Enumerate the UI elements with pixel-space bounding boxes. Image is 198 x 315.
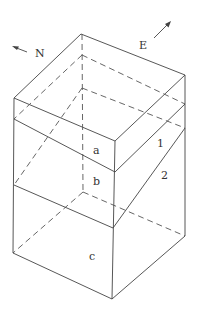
front-edge bbox=[112, 141, 115, 299]
layer-a-label: a bbox=[93, 144, 100, 157]
surface-2 bbox=[113, 128, 185, 228]
east-label: E bbox=[139, 39, 147, 52]
hidden-line-c-left bbox=[13, 192, 83, 253]
surface-1-label: 1 bbox=[157, 137, 164, 150]
hidden-line-a-left bbox=[14, 55, 82, 119]
layer-b-label: b bbox=[93, 175, 100, 188]
bottom-right-edge bbox=[112, 236, 185, 299]
north-label: N bbox=[35, 47, 45, 60]
east-arrow-icon bbox=[154, 21, 171, 38]
block-diagram: N E a b c 1 2 bbox=[0, 0, 198, 315]
north-arrow-icon bbox=[12, 46, 27, 52]
hidden-line-a-right bbox=[82, 55, 185, 104]
bottom-left-edge bbox=[13, 253, 112, 299]
layer-b-base-left bbox=[14, 185, 113, 228]
left-edge bbox=[13, 98, 14, 253]
hidden-back-edge bbox=[82, 34, 83, 192]
hidden-line-b-right bbox=[82, 88, 185, 128]
surface-2-label: 2 bbox=[161, 169, 168, 182]
layer-c-label: c bbox=[89, 250, 95, 263]
